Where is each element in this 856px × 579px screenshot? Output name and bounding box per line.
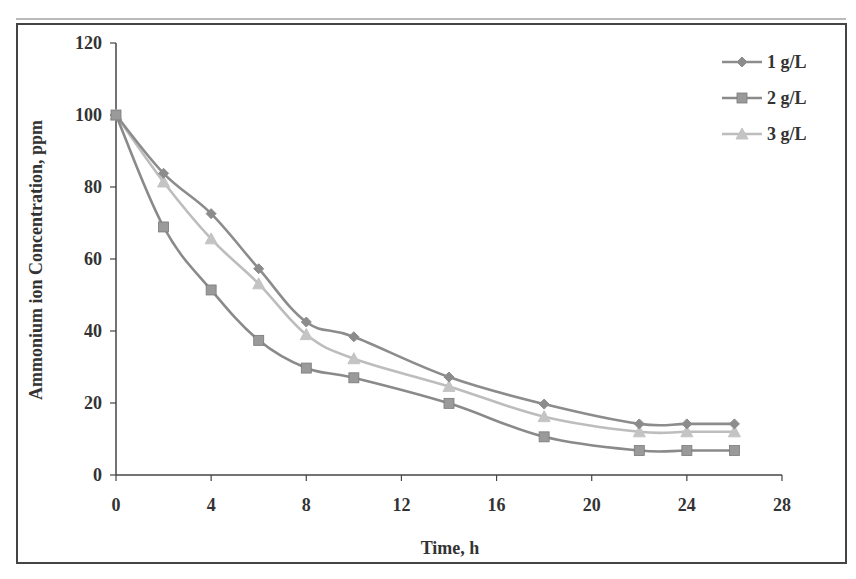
diamond-marker: [444, 372, 454, 382]
square-marker: [159, 222, 169, 232]
chart-canvas: 0204060801001200481216202428 1 g/L2 g/L3…: [0, 0, 856, 579]
x-tick-label: 4: [207, 495, 216, 515]
square-marker: [349, 373, 359, 383]
square-marker: [206, 285, 216, 295]
legend-item: 1 g/L: [722, 52, 807, 72]
x-tick-label: 8: [302, 495, 311, 515]
square-marker: [682, 446, 692, 456]
diamond-marker: [634, 419, 644, 429]
y-tick-label: 60: [84, 249, 102, 269]
y-tick-label: 20: [84, 393, 102, 413]
x-tick-label: 16: [488, 495, 506, 515]
x-axis-label: Time, h: [421, 538, 480, 558]
y-tick-label: 120: [75, 33, 102, 53]
legend-item: 2 g/L: [722, 88, 807, 108]
square-marker: [111, 110, 121, 120]
series-2-g-l: [111, 110, 739, 456]
series-line: [116, 115, 734, 433]
diamond-marker: [539, 399, 549, 409]
square-marker: [729, 446, 739, 456]
diamond-marker: [349, 332, 359, 342]
square-marker: [737, 93, 747, 103]
series-layer: [110, 109, 740, 456]
square-marker: [634, 446, 644, 456]
chart: 0204060801001200481216202428 1 g/L2 g/L3…: [0, 0, 856, 579]
series-3-g-l: [110, 109, 740, 437]
x-tick-label: 12: [392, 495, 410, 515]
x-tick-label: 20: [583, 495, 601, 515]
x-tick-label: 0: [112, 495, 121, 515]
square-marker: [539, 432, 549, 442]
square-marker: [254, 335, 264, 345]
legend-item: 3 g/L: [722, 124, 807, 144]
legend: 1 g/L2 g/L3 g/L: [722, 52, 807, 144]
series-1-g-l: [111, 110, 739, 429]
x-tick-label: 24: [678, 495, 696, 515]
x-tick-label: 28: [773, 495, 791, 515]
y-tick-label: 80: [84, 177, 102, 197]
series-line: [116, 115, 734, 452]
diamond-marker: [729, 419, 739, 429]
legend-label: 3 g/L: [767, 124, 807, 144]
chart-frame: [17, 24, 846, 563]
legend-label: 2 g/L: [767, 88, 807, 108]
y-tick-label: 0: [93, 465, 102, 485]
diamond-marker: [682, 419, 692, 429]
square-marker: [301, 363, 311, 373]
legend-label: 1 g/L: [767, 52, 807, 72]
diamond-marker: [737, 57, 747, 67]
square-marker: [444, 398, 454, 408]
y-axis-label: Ammonium ion Concentration, ppm: [26, 120, 46, 400]
axes: 0204060801001200481216202428: [75, 33, 791, 515]
y-tick-label: 40: [84, 321, 102, 341]
y-tick-label: 100: [75, 105, 102, 125]
